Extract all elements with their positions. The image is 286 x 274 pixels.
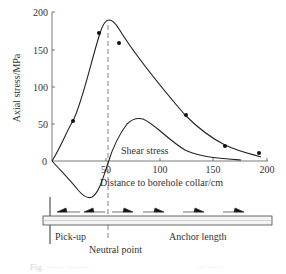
y-tick-100: 100 bbox=[33, 82, 48, 93]
x-tick-150: 150 bbox=[206, 164, 221, 175]
y-tick-150: 150 bbox=[33, 45, 48, 56]
x-axis: 50 100 150 200 Distance to borehole coll… bbox=[52, 158, 275, 188]
y-tick-200: 200 bbox=[33, 7, 48, 18]
data-point bbox=[223, 144, 227, 148]
figure-caption: Fig. ··· ·· ···· ··· ··· ····· bbox=[0, 262, 286, 274]
axial-stress-curve bbox=[52, 20, 261, 161]
shear-stress-label: Shear stress bbox=[121, 145, 169, 156]
data-point bbox=[97, 31, 101, 35]
x-axis-label: Distance to borehole collar/cm bbox=[100, 177, 223, 188]
chart-figure: 200 150 100 50 0 Axial stress/MPa 50 100… bbox=[0, 0, 286, 274]
shear-arrows-right bbox=[112, 208, 244, 212]
anchor-length-label: Anchor length bbox=[169, 231, 227, 242]
neutral-point-label: Neutral point bbox=[89, 244, 142, 255]
data-point bbox=[257, 151, 261, 155]
caption-right: ··· ····· bbox=[196, 262, 222, 272]
data-point bbox=[71, 119, 75, 123]
x-tick-100: 100 bbox=[153, 164, 168, 175]
data-point bbox=[184, 113, 188, 117]
y-tick-50: 50 bbox=[38, 119, 48, 130]
y-axis: 200 150 100 50 0 Axial stress/MPa bbox=[11, 7, 55, 167]
y-axis-label: Axial stress/MPa bbox=[11, 53, 22, 122]
pickup-label: Pick-up bbox=[55, 231, 86, 242]
shear-arrows-left bbox=[57, 208, 105, 212]
data-point bbox=[117, 41, 121, 45]
y-tick-0: 0 bbox=[42, 156, 47, 167]
x-tick-200: 200 bbox=[260, 164, 275, 175]
caption-left: Fig. ··· ·· ···· ··· bbox=[30, 262, 89, 272]
